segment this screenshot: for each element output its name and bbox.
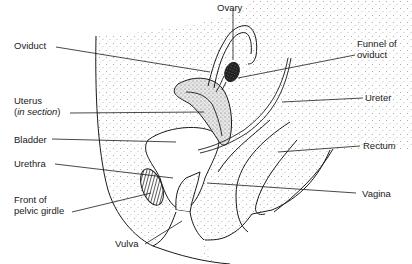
diagram-artwork xyxy=(0,0,412,264)
label-pelvic-line2: pelvic girdle xyxy=(14,205,64,216)
label-funnel-line2: oviduct xyxy=(357,49,397,60)
anatomy-diagram: Ovary Oviduct Funnel of oviduct Uterus (… xyxy=(0,0,412,264)
label-funnel-of-oviduct: Funnel of oviduct xyxy=(357,38,397,60)
label-uterus: Uterus (in section) xyxy=(14,95,60,117)
label-uterus-line1: Uterus xyxy=(14,95,60,106)
label-oviduct: Oviduct xyxy=(14,40,46,51)
label-bladder: Bladder xyxy=(14,134,47,145)
label-ovary: Ovary xyxy=(217,2,242,13)
label-front-of-pelvic-girdle: Front of pelvic girdle xyxy=(14,194,64,216)
label-uterus-line2: (in section) xyxy=(14,106,60,117)
label-vagina: Vagina xyxy=(362,188,391,199)
label-uterus-italic: in section xyxy=(17,106,57,117)
label-urethra: Urethra xyxy=(14,158,46,169)
label-funnel-line1: Funnel of xyxy=(357,38,397,49)
label-vulva: Vulva xyxy=(115,238,138,249)
label-rectum: Rectum xyxy=(363,140,396,151)
paren-close: ) xyxy=(57,106,60,117)
label-ureter: Ureter xyxy=(365,92,391,103)
label-pelvic-line1: Front of xyxy=(14,194,64,205)
